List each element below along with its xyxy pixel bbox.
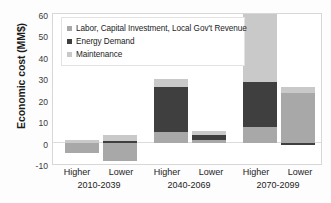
economic-cost-chart: Economic cost (MM$) 60 50 40 30 20 10 0 … bbox=[0, 0, 331, 203]
legend-item-energy-demand: Energy Demand bbox=[65, 35, 241, 48]
bar-segment bbox=[65, 140, 99, 143]
y-tick-label: 10 bbox=[24, 118, 48, 128]
y-tick-label: 30 bbox=[24, 75, 48, 85]
bar-segment bbox=[103, 143, 137, 161]
bar-segment bbox=[103, 141, 137, 143]
legend-item-labor: Labor, Capital Investment, Local Gov't R… bbox=[65, 22, 241, 35]
y-axis-ticks: 60 50 40 30 20 10 0 -10 bbox=[24, 0, 48, 203]
bar-segment bbox=[154, 132, 188, 143]
bar-segment bbox=[192, 135, 226, 140]
x-label-lower: Lower bbox=[278, 167, 322, 177]
y-tick-label: 60 bbox=[24, 11, 48, 21]
legend-swatch-icon bbox=[67, 39, 72, 44]
x-label-period: 2040-2069 bbox=[144, 180, 234, 190]
x-group-2070-2099: HigherLower 2070-2099 bbox=[233, 167, 323, 190]
x-group-2040-2069: HigherLower 2040-2069 bbox=[144, 167, 234, 190]
legend-label: Maintenance bbox=[76, 50, 122, 59]
x-label-lower: Lower bbox=[99, 167, 143, 177]
y-tick-label: 20 bbox=[24, 97, 48, 107]
bar-segment bbox=[281, 143, 315, 145]
bar-segment bbox=[281, 87, 315, 93]
bar-segment bbox=[192, 131, 226, 135]
chart-legend: Labor, Capital Investment, Local Gov't R… bbox=[61, 17, 245, 66]
y-tick-label: 40 bbox=[24, 54, 48, 64]
bar-segment bbox=[65, 143, 99, 154]
x-label-higher: Higher bbox=[234, 167, 278, 177]
x-label-period: 2010-2039 bbox=[54, 180, 144, 190]
legend-item-maintenance: Maintenance bbox=[65, 48, 241, 61]
legend-swatch-icon bbox=[67, 26, 72, 31]
bar-segment bbox=[154, 79, 188, 87]
x-group-2010-2039: HigherLower 2010-2039 bbox=[54, 167, 144, 190]
bar-segment bbox=[243, 82, 277, 127]
x-label-higher: Higher bbox=[145, 167, 189, 177]
bar-higher-2070-2099 bbox=[243, 14, 277, 164]
bar-lower-2070-2099 bbox=[281, 14, 315, 164]
bar-segment bbox=[103, 135, 137, 141]
y-tick-label: 50 bbox=[24, 32, 48, 42]
bar-segment bbox=[243, 14, 277, 82]
y-tick-label: -10 bbox=[24, 161, 48, 171]
bar-segment bbox=[154, 87, 188, 132]
legend-label: Labor, Capital Investment, Local Gov't R… bbox=[76, 24, 247, 33]
bar-segment bbox=[281, 93, 315, 142]
x-axis-labels: HigherLower 2010-2039 HigherLower 2040-2… bbox=[52, 167, 322, 203]
bar-segment bbox=[243, 127, 277, 143]
x-label-period: 2070-2099 bbox=[233, 180, 323, 190]
x-label-higher: Higher bbox=[55, 167, 99, 177]
y-tick-label: 0 bbox=[24, 140, 48, 150]
legend-swatch-icon bbox=[67, 52, 72, 57]
legend-label: Energy Demand bbox=[76, 37, 135, 46]
x-label-lower: Lower bbox=[189, 167, 233, 177]
bar-segment bbox=[192, 140, 226, 142]
